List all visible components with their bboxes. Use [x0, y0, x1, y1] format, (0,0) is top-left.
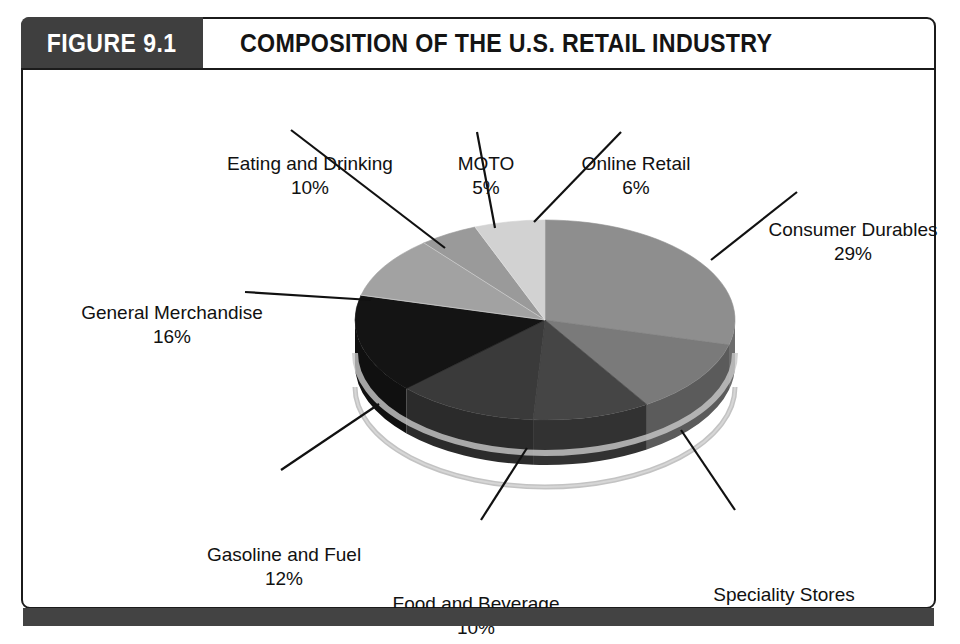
- pie-label-speciality-stores-name: Speciality Stores: [669, 583, 899, 607]
- figure-number-label: FIGURE 9.1: [47, 29, 177, 58]
- pie-label-gasoline-and-fuel-name: Gasoline and Fuel: [164, 543, 404, 567]
- pie-label-general-merchandise: General Merchandise 16%: [47, 301, 297, 349]
- figure-title-container: COMPOSITION OF THE U.S. RETAIL INDUSTRY: [203, 17, 936, 69]
- pie-label-moto-value: 5%: [426, 176, 546, 200]
- figure-number-badge: FIGURE 9.1: [21, 17, 203, 69]
- pie-label-consumer-durables-value: 29%: [733, 242, 960, 266]
- figure-footer-bar: [23, 608, 934, 626]
- pie-label-general-merchandise-name: General Merchandise: [47, 301, 297, 325]
- pie-label-consumer-durables-name: Consumer Durables: [733, 218, 960, 242]
- leader-line-gasoline-and-fuel: [281, 404, 379, 470]
- pie-label-online-retail-name: Online Retail: [541, 152, 731, 176]
- figure-header: FIGURE 9.1 COMPOSITION OF THE U.S. RETAI…: [21, 17, 936, 69]
- pie-top-face: [355, 220, 735, 420]
- pie-label-general-merchandise-value: 16%: [47, 325, 297, 349]
- pie-label-eating-and-drinking-value: 10%: [195, 176, 425, 200]
- pie-label-eating-and-drinking-name: Eating and Drinking: [195, 152, 425, 176]
- pie-label-consumer-durables: Consumer Durables 29%: [733, 218, 960, 266]
- pie-label-online-retail-value: 6%: [541, 176, 731, 200]
- pie-label-moto-name: MOTO: [426, 152, 546, 176]
- page-title: COMPOSITION OF THE U.S. RETAIL INDUSTRY: [240, 29, 772, 58]
- leader-line-general-merchandise: [245, 292, 371, 300]
- pie-label-gasoline-and-fuel: Gasoline and Fuel 12%: [164, 543, 404, 591]
- pie-chart: Eating and Drinking 10% MOTO 5% Online R…: [21, 70, 936, 608]
- pie-label-eating-and-drinking: Eating and Drinking 10%: [195, 152, 425, 200]
- pie-label-online-retail: Online Retail 6%: [541, 152, 731, 200]
- leader-line-speciality-stores: [681, 430, 735, 510]
- pie-label-gasoline-and-fuel-value: 12%: [164, 567, 404, 591]
- pie-label-moto: MOTO 5%: [426, 152, 546, 200]
